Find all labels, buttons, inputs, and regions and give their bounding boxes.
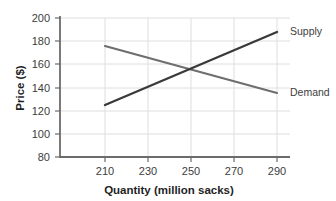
x-tick-label-230: 230 bbox=[139, 165, 157, 177]
y-tick-label-80: 80 bbox=[38, 151, 50, 163]
x-tick-label-210: 210 bbox=[96, 165, 114, 177]
x-tick-label-290: 290 bbox=[268, 165, 286, 177]
supply-demand-chart-figure: 200 180 160 140 120 100 80 210 230 250 2… bbox=[0, 0, 336, 201]
x-tick-label-250: 250 bbox=[182, 165, 200, 177]
y-tick-label-100: 100 bbox=[32, 128, 50, 140]
y-tick-label-160: 160 bbox=[32, 58, 50, 70]
x-tick-label-270: 270 bbox=[225, 165, 243, 177]
y-tick-label-120: 120 bbox=[32, 105, 50, 117]
y-tick-label-200: 200 bbox=[32, 12, 50, 24]
chart-canvas: 200 180 160 140 120 100 80 210 230 250 2… bbox=[0, 0, 336, 201]
y-tick-label-140: 140 bbox=[32, 82, 50, 94]
supply-series-label: Supply bbox=[290, 25, 323, 37]
x-axis-title: Quantity (million sacks) bbox=[104, 184, 234, 196]
y-axis-title: Price ($) bbox=[14, 65, 26, 111]
demand-series-label: Demand bbox=[290, 86, 330, 98]
y-tick-label-180: 180 bbox=[32, 35, 50, 47]
